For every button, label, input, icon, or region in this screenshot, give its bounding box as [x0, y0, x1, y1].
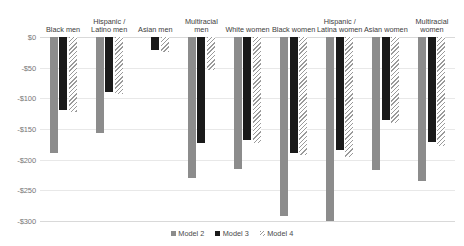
bar-m3: [59, 37, 67, 110]
y-axis-tick-label: -$300: [17, 217, 36, 226]
category-label: White women: [225, 26, 269, 35]
bar-group: Black men: [40, 37, 86, 221]
category-label: Black women: [272, 26, 315, 35]
bar-m2: [188, 37, 196, 178]
bar-group: Multiracialmen: [178, 37, 224, 221]
y-axis-tick-label: $0: [28, 33, 36, 42]
bar-group: Asian men: [132, 37, 178, 221]
y-axis-tick-label: -$50: [21, 63, 36, 72]
category-label: Multiracialmen: [185, 18, 218, 35]
bar-m4: [161, 37, 169, 52]
chart-legend: Model 2Model 3Model 4: [0, 229, 464, 238]
category-label: Black men: [46, 26, 80, 35]
legend-item[interactable]: Model 2: [171, 229, 204, 238]
chart-container: $0-$50-$100-$150-$200-$250-$300 Black me…: [0, 0, 464, 246]
bar-group: Asian women: [363, 37, 409, 221]
bar-m4: [299, 37, 307, 155]
y-axis-tick-labels: $0-$50-$100-$150-$200-$250-$300: [0, 0, 36, 246]
legend-swatch-icon: [215, 231, 220, 236]
bar-m4: [69, 37, 77, 112]
bar-m2: [372, 37, 380, 170]
y-axis-tick-label: -$150: [17, 125, 36, 134]
legend-swatch-icon: [260, 231, 265, 236]
bar-m3: [290, 37, 298, 153]
y-axis-tick-label: -$100: [17, 94, 36, 103]
legend-item[interactable]: Model 4: [260, 229, 293, 238]
bar-m2: [418, 37, 426, 181]
category-label: Hispanic /Latino men: [91, 18, 127, 35]
bar-group: White women: [224, 37, 270, 221]
category-label: Hispanic /Latina women: [317, 18, 362, 35]
bar-m2: [96, 37, 104, 133]
bar-m4: [115, 37, 123, 94]
bar-m4: [207, 37, 215, 70]
bar-m3: [105, 37, 113, 92]
category-label: Asian men: [138, 26, 172, 35]
bar-m3: [382, 37, 390, 120]
bar-m4: [391, 37, 399, 123]
legend-label: Model 2: [178, 229, 204, 238]
bar-group: Multiracialwomen: [409, 37, 455, 221]
category-label: Asian women: [364, 26, 408, 35]
y-axis-tick-label: -$250: [17, 186, 36, 195]
bar-m4: [253, 37, 261, 143]
legend-item[interactable]: Model 3: [215, 229, 248, 238]
bar-m2: [326, 37, 334, 221]
y-axis-tick-label: -$200: [17, 155, 36, 164]
bar-m4: [345, 37, 353, 157]
bar-m3: [336, 37, 344, 150]
bar-m2: [234, 37, 242, 169]
category-label: Multiracialwomen: [416, 18, 449, 35]
plot-area: Black menHispanic /Latino menAsian menMu…: [40, 37, 455, 221]
bar-m3: [151, 37, 159, 50]
chart-bottom-axis: [40, 221, 455, 222]
legend-label: Model 3: [223, 229, 249, 238]
bar-group: Hispanic /Latino men: [86, 37, 132, 221]
bar-m3: [197, 37, 205, 143]
legend-swatch-icon: [171, 231, 176, 236]
bar-m2: [50, 37, 58, 153]
bar-m3: [243, 37, 251, 140]
bar-m3: [428, 37, 436, 142]
bar-group: Black women: [271, 37, 317, 221]
bar-m4: [437, 37, 445, 146]
legend-label: Model 4: [267, 229, 293, 238]
bar-group: Hispanic /Latina women: [317, 37, 363, 221]
bar-m2: [280, 37, 288, 216]
